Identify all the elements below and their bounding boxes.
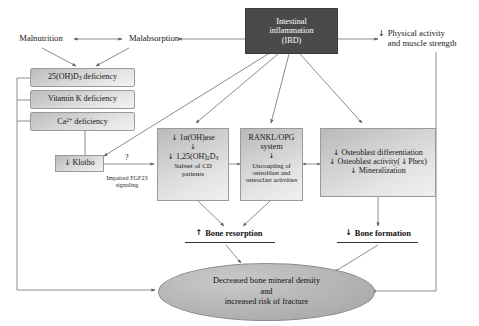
- fgf23-line-2: signaling: [116, 181, 139, 188]
- vitd-row-2: ↓ 1,25(OH)2D3: [168, 153, 219, 162]
- fgf23-line-1: Impaired FGF23: [106, 174, 147, 181]
- node-osteoblast-effects[interactable]: ↓ Osteoblast differentiation ↓ Osteoblas…: [320, 128, 436, 197]
- osteoblast-arrow-3-icon: ↓: [350, 167, 356, 176]
- edge-rankl-resorption: [243, 201, 270, 226]
- outcome-line-2: and: [213, 287, 320, 298]
- edge-ibd-osteoblast: [300, 54, 362, 123]
- physical-activity-arrow-icon: ↓: [378, 29, 385, 38]
- edge-formation-outcome: [334, 245, 378, 272]
- node-malnutrition[interactable]: Malnutrition: [8, 31, 74, 47]
- vitd-arrow-1-icon: ↓: [171, 134, 177, 143]
- osteoblast-row-3: ↓ Mineralization: [350, 167, 405, 176]
- node-25ohd3-deficiency[interactable]: 25(OH)D3 deficiency: [30, 68, 135, 87]
- ibd-line-3: (IBD): [282, 36, 302, 45]
- deficiency-label-1: Vitamin K deficiency: [48, 95, 117, 104]
- klotho-arrow-icon: ↓: [64, 159, 70, 168]
- rankl-down-arrow-icon: ↓: [269, 153, 275, 161]
- edge-malabsorption-stack: [96, 48, 129, 66]
- vitd-arrow-2-icon: ↓: [168, 153, 174, 162]
- node-outcome-ellipse[interactable]: Decreased bone mineral density and incre…: [158, 263, 375, 321]
- osteoblast-row-3-label: Mineralization: [359, 167, 406, 176]
- rankl-line-2: system: [260, 143, 282, 152]
- label-question-mark: ?: [125, 153, 129, 162]
- edge-ibd-rankl: [271, 54, 289, 123]
- node-vitamink-deficiency[interactable]: Vitamin K deficiency: [30, 90, 135, 109]
- outcome-line-1: Decreased bone mineral density: [213, 276, 320, 287]
- edge-malnutrition-stack: [42, 48, 76, 66]
- rankl-line-5: osteoclast activities: [246, 176, 297, 183]
- malnutrition-label: Malnutrition: [19, 34, 62, 44]
- edge-resorption-outcome: [226, 245, 241, 263]
- vitd-row-1-label: 1α(OH)ase: [180, 134, 215, 143]
- node-malabsorption[interactable]: Malabsorption: [118, 31, 190, 47]
- node-calcium-deficiency[interactable]: Ca2+ deficiency: [30, 112, 135, 131]
- bone-resorption-label: Bone resorption: [205, 229, 262, 238]
- bone-formation-arrow-icon: ↓: [345, 229, 352, 238]
- outcome-line-3: increased risk of fracture: [213, 297, 320, 308]
- physical-activity-line-2: and muscle strength: [388, 39, 457, 49]
- osteoblast-arrow-2-icon: ↓: [329, 158, 335, 167]
- node-klotho[interactable]: ↓ Klotho: [55, 155, 104, 172]
- label-impaired-fgf23: Impaired FGF23 signaling: [96, 172, 158, 190]
- osteoblast-row-2-label-b: Phex): [408, 158, 427, 167]
- node-intestinal-inflammation[interactable]: Intestinal inflammation (IBD): [245, 8, 338, 54]
- ibd-line-1: Intestinal: [276, 17, 306, 26]
- diagram-canvas: Intestinal inflammation (IBD) Malnutriti…: [0, 0, 479, 326]
- node-vitamin-d-pathway[interactable]: ↓ 1α(OH)ase ↓ ↓ 1,25(OH)2D3 Subset of CD…: [157, 128, 229, 201]
- ibd-line-2: inflammation: [269, 26, 313, 35]
- deficiency-label-0: 25(OH)D3 deficiency: [48, 73, 117, 82]
- node-physical-activity[interactable]: ↓ Physical activity and muscle strength: [378, 26, 478, 52]
- edge-ibd-vitd: [196, 54, 278, 123]
- malabsorption-label: Malabsorption: [129, 34, 179, 44]
- vitd-down-arrow-icon: ↓: [190, 144, 196, 152]
- bone-resorption-underline: [185, 242, 275, 243]
- node-rankl-opg[interactable]: RANKL/OPG system ↓ Uncoupling of osteobl…: [240, 128, 303, 201]
- vitd-row-2-label: 1,25(OH)2D3: [176, 153, 218, 162]
- vitd-note-2: patients: [182, 171, 204, 179]
- bone-resorption-arrow-icon: ↑: [196, 229, 203, 238]
- rankl-line-4: osteoblast and: [253, 169, 291, 176]
- deficiency-label-2: Ca2+ deficiency: [57, 117, 107, 127]
- bone-formation-underline: [337, 242, 418, 243]
- node-bone-formation[interactable]: ↓ Bone formation: [330, 226, 426, 241]
- rankl-line-3: Uncoupling of: [252, 162, 290, 169]
- edge-vitd-resorption: [198, 201, 224, 226]
- klotho-label: Klotho: [73, 159, 95, 168]
- node-bone-resorption[interactable]: ↑ Bone resorption: [175, 226, 283, 241]
- vitd-row-1: ↓ 1α(OH)ase: [171, 134, 215, 143]
- bone-formation-label: Bone formation: [355, 229, 411, 238]
